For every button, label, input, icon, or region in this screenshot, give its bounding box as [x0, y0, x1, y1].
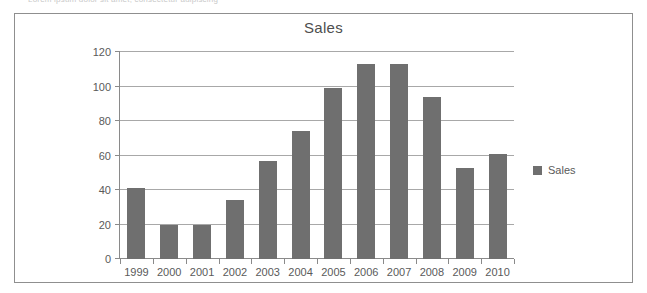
x-tick — [219, 259, 220, 264]
x-tick — [153, 259, 154, 264]
x-axis-labels: 1999200020012002200320042005200620072008… — [120, 266, 514, 278]
x-tick — [317, 259, 318, 264]
x-axis-label-2003: 2003 — [251, 266, 284, 278]
x-axis-ticks — [120, 52, 514, 259]
x-axis-label-2005: 2005 — [317, 266, 350, 278]
chart-legend: Sales — [533, 164, 576, 176]
x-tick — [448, 259, 449, 264]
x-axis-label-2006: 2006 — [350, 266, 383, 278]
x-tick — [350, 259, 351, 264]
plot-area: 020406080100120 — [120, 52, 514, 259]
y-axis-tick-label: 60 — [99, 150, 111, 162]
clipped-top-caption: Lorem ipsum dolor sit amet, consectetur … — [28, 0, 368, 4]
x-tick — [481, 259, 482, 264]
chart-title: Sales — [15, 19, 632, 36]
x-axis-label-2000: 2000 — [153, 266, 186, 278]
x-axis-label-2007: 2007 — [383, 266, 416, 278]
x-axis-label-2004: 2004 — [284, 266, 317, 278]
legend-swatch-sales — [533, 166, 542, 175]
x-axis-label-2008: 2008 — [415, 266, 448, 278]
x-tick — [186, 259, 187, 264]
chart-frame: Sales 020406080100120 199920002001200220… — [14, 13, 633, 283]
x-tick — [383, 259, 384, 264]
legend-label-sales: Sales — [548, 164, 576, 176]
y-axis-tick-label: 100 — [93, 81, 111, 93]
y-axis-tick-label: 0 — [105, 253, 111, 265]
y-axis-tick-label: 40 — [99, 184, 111, 196]
x-axis-label-2010: 2010 — [481, 266, 514, 278]
y-axis-tick-label: 120 — [93, 46, 111, 58]
x-tick — [514, 259, 515, 264]
x-axis-label-1999: 1999 — [120, 266, 153, 278]
x-tick — [284, 259, 285, 264]
x-axis-label-2001: 2001 — [186, 266, 219, 278]
x-axis-label-2009: 2009 — [448, 266, 481, 278]
y-axis-tick-label: 20 — [99, 219, 111, 231]
y-axis-tick-label: 80 — [99, 115, 111, 127]
x-tick — [120, 259, 121, 264]
x-tick — [416, 259, 417, 264]
x-axis-label-2002: 2002 — [218, 266, 251, 278]
x-tick — [251, 259, 252, 264]
